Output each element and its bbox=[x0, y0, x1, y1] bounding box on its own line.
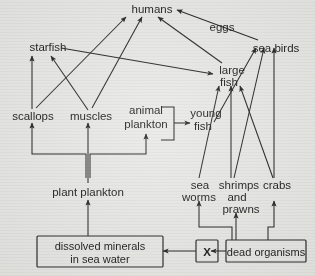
node-young-fish-line2: fish bbox=[194, 120, 212, 132]
edge-sea-worms-to-large-fish bbox=[199, 86, 219, 178]
node-humans: humans bbox=[132, 3, 173, 15]
node-crabs: crabs bbox=[263, 179, 291, 191]
edge-muscles-to-starfish bbox=[51, 56, 88, 110]
node-large-fish-line1: large bbox=[219, 64, 245, 76]
edge-dead-organisms-to-crabs bbox=[268, 201, 274, 240]
label-layer: humans eggs starfish sea birds large fis… bbox=[12, 3, 305, 265]
node-scallops: scallops bbox=[12, 110, 54, 122]
node-eggs: eggs bbox=[210, 21, 235, 33]
node-large-fish-line2: fish bbox=[220, 76, 238, 88]
node-unknown-x: X bbox=[203, 246, 211, 258]
node-starfish: starfish bbox=[29, 41, 66, 53]
edge-plant-plankton-to-scallops bbox=[32, 123, 86, 178]
node-dissolved-minerals-line2: in sea water bbox=[70, 253, 130, 265]
node-shrimps-line1: shrimps bbox=[219, 179, 260, 191]
node-animal-plankton-line1: animal bbox=[129, 104, 163, 116]
node-dead-organisms: dead organisms bbox=[227, 246, 306, 258]
node-sea-worms-line2: worms bbox=[181, 191, 216, 203]
node-plant-plankton: plant plankton bbox=[52, 186, 124, 198]
node-shrimps-line3: prawns bbox=[222, 203, 259, 215]
edge-plant-plankton-to-animal-plankton bbox=[90, 134, 146, 178]
edge-starfish-to-large-fish bbox=[61, 48, 213, 74]
node-muscles: muscles bbox=[70, 110, 112, 122]
node-animal-plankton-line2: plankton bbox=[124, 118, 167, 130]
food-web-diagram: humans eggs starfish sea birds large fis… bbox=[0, 0, 315, 276]
node-sea-worms-line1: sea bbox=[191, 179, 210, 191]
food-web-canvas: humans eggs starfish sea birds large fis… bbox=[0, 0, 315, 276]
node-shrimps-line2: and bbox=[227, 191, 246, 203]
edge-muscles-to-humans bbox=[92, 17, 142, 108]
node-young-fish-line1: young bbox=[190, 107, 221, 119]
node-sea-birds: sea birds bbox=[253, 42, 300, 54]
edge-scallops-to-humans bbox=[36, 17, 126, 108]
node-dissolved-minerals-line1: dissolved minerals bbox=[55, 240, 146, 252]
